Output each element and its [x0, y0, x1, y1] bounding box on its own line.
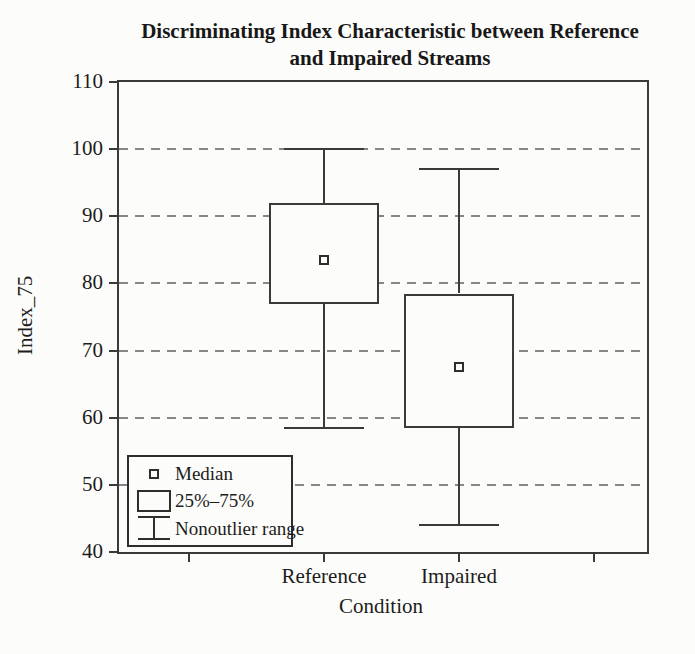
whisker-cap-top-impaired — [419, 168, 499, 170]
whisker-cap-bottom-impaired — [419, 524, 499, 526]
legend-symbol-col — [133, 490, 175, 512]
y-axis-title: Index_75 — [8, 80, 42, 550]
whisker-upper-impaired — [458, 169, 460, 293]
legend-label-iqr: 25%–75% — [175, 491, 254, 510]
legend-label-nonoutlier: Nonoutlier range — [175, 519, 304, 538]
iqr-box-impaired — [404, 294, 514, 428]
median-marker-icon — [149, 469, 159, 479]
y-tick-label-90: 90 — [53, 205, 103, 226]
y-tick-label-80: 80 — [53, 272, 103, 293]
median-marker-impaired — [454, 362, 464, 372]
whisker-lower-impaired — [458, 428, 460, 525]
legend-symbol-col — [133, 516, 175, 540]
chart-title-line1: Discriminating Index Characteristic betw… — [90, 18, 690, 45]
gridline-70 — [119, 350, 647, 352]
chart-title: Discriminating Index Characteristic betw… — [90, 18, 690, 72]
y-tick-40 — [109, 551, 119, 553]
y-tick-70 — [109, 350, 119, 352]
gridline-90 — [119, 215, 647, 217]
y-tick-110 — [109, 81, 119, 83]
y-tick-100 — [109, 148, 119, 150]
x-category-label-impaired: Impaired — [389, 564, 529, 589]
x-tick-reference — [323, 552, 325, 562]
iqr-box-reference — [269, 203, 379, 304]
y-tick-label-50: 50 — [53, 474, 103, 495]
y-tick-label-60: 60 — [53, 407, 103, 428]
y-tick-label-70: 70 — [53, 340, 103, 361]
chart-title-line2: and Impaired Streams — [90, 45, 690, 72]
y-tick-50 — [109, 484, 119, 486]
y-tick-label-100: 100 — [53, 138, 103, 159]
whisker-cap-top-reference — [284, 148, 364, 150]
gridline-60 — [119, 417, 647, 419]
gridline-80 — [119, 282, 647, 284]
gridline-100 — [119, 148, 647, 150]
x-category-label-reference: Reference — [254, 564, 394, 589]
legend-symbol-col — [133, 469, 175, 479]
x-axis-title: Condition — [231, 594, 531, 619]
y-tick-80 — [109, 282, 119, 284]
y-tick-label-40: 40 — [53, 541, 103, 562]
y-tick-label-110: 110 — [53, 71, 103, 92]
x-tick-impaired — [458, 552, 460, 562]
whisker-upper-reference — [323, 149, 325, 203]
legend-label-median: Median — [175, 464, 233, 483]
y-tick-90 — [109, 215, 119, 217]
y-tick-60 — [109, 417, 119, 419]
whisker-lower-reference — [323, 304, 325, 428]
legend-item-median: Median — [133, 460, 287, 487]
whisker-cap-bottom-reference — [284, 427, 364, 429]
legend-item-iqr: 25%–75% — [133, 487, 287, 514]
legend-item-nonoutlier: Nonoutlier range — [133, 515, 287, 542]
iqr-box-icon — [137, 490, 171, 512]
x-minor-tick-0 — [188, 552, 190, 562]
boxplot-figure: Discriminating Index Characteristic betw… — [0, 0, 695, 654]
whisker-range-icon — [138, 516, 170, 540]
x-minor-tick-1 — [593, 552, 595, 562]
median-marker-reference — [319, 255, 329, 265]
legend: Median 25%–75% Nonoutlier range — [127, 455, 293, 547]
